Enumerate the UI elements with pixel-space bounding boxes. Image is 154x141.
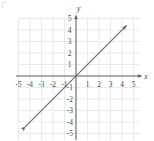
y-tick-label: -1 — [67, 83, 73, 92]
x-tick-label: -3 — [38, 80, 44, 89]
x-axis-label: x — [143, 72, 148, 81]
x-tick-label: -4 — [27, 80, 33, 89]
y-tick-label: -4 — [67, 118, 73, 127]
x-tick-label: 3 — [109, 80, 113, 89]
graph-canvas: -5 -4 -3 -2 -1 1 2 3 4 5 5 4 3 2 1 -1 -2… — [0, 0, 154, 140]
y-tick-label: -3 — [67, 106, 73, 115]
coordinate-plane-figure: -5 -4 -3 -2 -1 1 2 3 4 5 5 4 3 2 1 -1 -2… — [0, 0, 154, 140]
y-tick-label: 4 — [68, 26, 72, 35]
y-axis-label: y — [76, 4, 81, 13]
x-tick-label: 1 — [86, 80, 90, 89]
y-tick-label: -2 — [67, 95, 73, 104]
y-tick-label: -5 — [67, 129, 73, 138]
x-tick-label: 5 — [132, 80, 136, 89]
x-tick-label: 2 — [97, 80, 101, 89]
y-tick-label: 5 — [68, 14, 72, 23]
axes — [16, 16, 142, 141]
y-axis-positive-tick-labels: 5 4 3 2 1 — [68, 14, 72, 69]
y-axis-negative-tick-labels: -1 -2 -3 -4 -5 — [67, 83, 73, 138]
y-tick-label: 2 — [68, 49, 72, 58]
x-tick-label: -5 — [15, 80, 21, 89]
y-tick-label: 3 — [68, 37, 72, 46]
x-tick-label: -2 — [50, 80, 56, 89]
y-tick-label: 1 — [68, 60, 72, 69]
x-tick-label: 4 — [120, 80, 124, 89]
